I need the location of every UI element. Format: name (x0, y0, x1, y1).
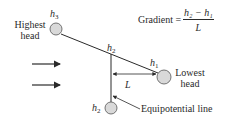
gradient-numerator: h₂ − h₁ (183, 7, 214, 20)
bottom-head-circle (105, 102, 117, 114)
lowest-head-label: Lowest head (174, 68, 206, 89)
gradient-denominator: L (196, 20, 202, 33)
bottom-head-symbol: h2 (92, 103, 101, 115)
equipotential-label: Equipotential line (141, 104, 212, 114)
gradient-formula-lhs: Gradient = (138, 15, 181, 25)
lowest-head-circle (157, 70, 171, 84)
highest-head-label: Highest head (12, 20, 48, 41)
middle-head-symbol: h2 (107, 43, 116, 55)
gradient-formula-fraction: h₂ − h₁ L (183, 7, 214, 33)
highest-head-symbol: h3 (50, 9, 59, 21)
highest-head-circle (50, 23, 62, 35)
lowest-head-symbol: h1 (150, 58, 159, 70)
length-label: L (125, 80, 131, 90)
